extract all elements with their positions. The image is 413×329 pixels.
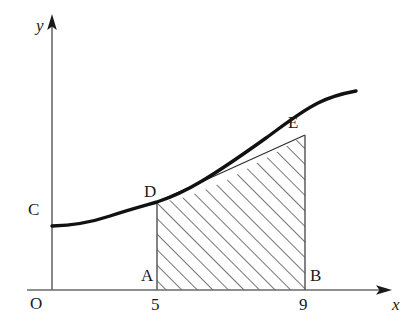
origin-label: O	[30, 295, 42, 312]
point-label-e: E	[288, 114, 298, 131]
math-figure-coordinate-plane: y x O 5 9 C D E A B	[0, 0, 413, 329]
x-tick-label-5: 5	[151, 296, 160, 313]
figure-canvas	[0, 0, 413, 329]
point-label-b: B	[310, 267, 321, 284]
y-axis-label: y	[36, 17, 44, 34]
x-tick-label-9: 9	[299, 296, 308, 313]
point-label-d: D	[144, 183, 156, 200]
point-label-a: A	[141, 267, 153, 284]
point-label-c: C	[28, 201, 39, 218]
x-axis-label: x	[392, 296, 400, 313]
shaded-region-abed	[157, 135, 305, 290]
